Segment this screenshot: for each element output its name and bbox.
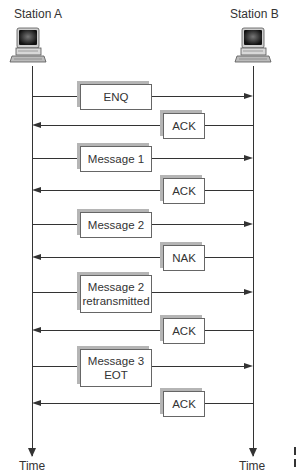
station-b-label: Station B: [230, 7, 279, 21]
station-b-timeline: [253, 66, 254, 456]
arrow-right-icon: [244, 289, 253, 295]
arrow-left-icon: [32, 327, 41, 333]
message-label-line1: Message 3: [88, 354, 144, 368]
message-box: Message 3 EOT: [80, 349, 152, 387]
arrow-line: [41, 190, 253, 191]
arrow-right-icon: [244, 93, 253, 99]
arrow-left-icon: [32, 254, 41, 260]
arrow-left-icon: [32, 187, 41, 193]
message-label: NAK: [172, 251, 196, 265]
arrow-line: [41, 125, 253, 126]
message-label-line1: Message 2: [88, 280, 144, 294]
message-label: ACK: [172, 397, 196, 411]
arrow-left-icon: [32, 122, 41, 128]
message-label-line2: retransmitted: [82, 294, 149, 308]
station-b-time-label: Time: [239, 459, 265, 470]
message-label: Message 1: [88, 152, 144, 166]
arrow-line: [41, 330, 253, 331]
station-a-time-label: Time: [19, 459, 45, 470]
message-box: ENQ: [80, 84, 152, 110]
arrow-right-icon: [244, 363, 253, 369]
arrow-right-icon: [244, 155, 253, 161]
cropped-text-fragment: [294, 447, 296, 455]
message-box: ACK: [163, 391, 205, 417]
message-label: ENQ: [104, 90, 129, 104]
arrow-right-icon: [244, 221, 253, 227]
arrow-line: [41, 403, 253, 404]
message-label: ACK: [172, 184, 196, 198]
computer-icon: [8, 26, 48, 66]
message-box: Message 2: [80, 212, 152, 238]
station-a-label: Station A: [14, 7, 62, 21]
arrow-line: [41, 257, 253, 258]
message-box: ACK: [163, 318, 205, 344]
computer-icon: [233, 26, 273, 66]
message-label: Message 2: [88, 218, 144, 232]
message-box: ACK: [163, 113, 205, 139]
arrow-left-icon: [32, 400, 41, 406]
message-label-line2: EOT: [104, 368, 128, 382]
station-b-time-arrow: [249, 448, 257, 457]
message-label: ACK: [172, 119, 196, 133]
message-box: Message 2 retransmitted: [80, 275, 152, 313]
message-box: ACK: [163, 178, 205, 204]
message-box: Message 1: [80, 146, 152, 172]
station-a-time-arrow: [28, 448, 36, 457]
message-box: NAK: [163, 245, 205, 271]
message-label: ACK: [172, 324, 196, 338]
cropped-text-fragment: [294, 459, 296, 467]
